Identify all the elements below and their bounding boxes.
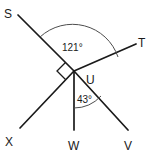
ray-ut	[74, 44, 136, 71]
point-label-w: W	[68, 139, 80, 153]
angle-label-sut: 121°	[62, 42, 83, 53]
geometry-figure: S T X W V U 121° 43°	[0, 0, 154, 155]
ray-ux	[20, 71, 74, 128]
right-angle-marker-sux	[57, 63, 66, 80]
point-label-u: U	[86, 73, 95, 87]
point-label-v: V	[124, 139, 132, 153]
point-label-t: T	[138, 36, 146, 50]
point-label-x: X	[5, 135, 13, 149]
geometry-canvas: S T X W V U 121° 43°	[0, 0, 154, 155]
angle-label-wuv: 43°	[77, 94, 92, 105]
point-label-s: S	[4, 7, 12, 21]
